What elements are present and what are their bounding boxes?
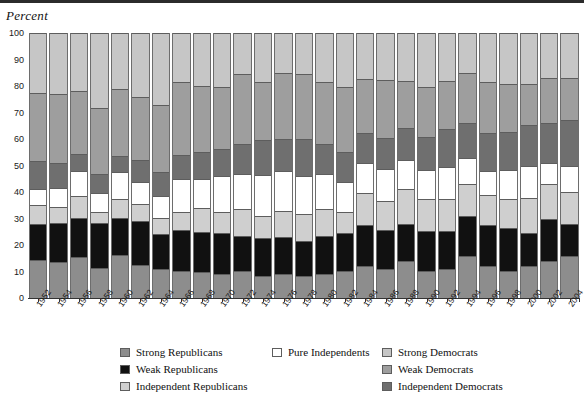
bar-segment-weak_democrats [418, 87, 434, 138]
bar-2004[interactable] [560, 33, 578, 298]
bar-segment-weak_republicans [132, 221, 148, 265]
bar-segment-weak_republicans [71, 218, 87, 257]
legend-item-weak_republicans[interactable]: Weak Republicans [120, 361, 248, 377]
bar-segment-weak_democrats [173, 82, 189, 155]
bar-segment-independent_republicans [398, 189, 414, 223]
bar-segment-independent_republicans [214, 212, 230, 234]
bar-segment-strong_democrats [132, 33, 148, 96]
bar-segment-independent_republicans [316, 209, 332, 236]
bar-segment-weak_republicans [275, 237, 291, 274]
bar-segment-pure_independents [337, 182, 353, 212]
bar-segment-pure_independents [50, 188, 66, 207]
y-tick-label: 50 [0, 161, 24, 171]
y-tick-label: 0 [0, 293, 24, 303]
bar-1994[interactable] [458, 33, 476, 298]
bar-segment-pure_independents [132, 182, 148, 204]
bar-segment-independent_republicans [459, 184, 475, 216]
bar-segment-strong_democrats [439, 33, 455, 81]
bar-segment-strong_democrats [153, 33, 169, 105]
bar-1988[interactable] [397, 33, 415, 298]
legend-item-independent_democrats[interactable]: Independent Democrats [382, 378, 503, 394]
bar-1968[interactable] [193, 33, 211, 298]
bar-1954[interactable] [49, 33, 67, 298]
bar-1958[interactable] [90, 33, 108, 298]
bar-segment-independent_democrats [439, 129, 455, 166]
bar-segment-pure_independents [459, 158, 475, 185]
bar-2000[interactable] [520, 33, 538, 298]
bar-segment-strong_democrats [50, 33, 66, 94]
y-tick-label: 60 [0, 134, 24, 144]
bar-segment-weak_democrats [439, 81, 455, 129]
bar-segment-weak_republicans [459, 216, 475, 256]
bar-segment-weak_republicans [398, 224, 414, 261]
bar-1956[interactable] [70, 33, 88, 298]
y-tick-label: 100 [0, 28, 24, 38]
bar-segment-strong_democrats [377, 33, 393, 80]
bar-segment-strong_democrats [194, 33, 210, 86]
bar-segment-weak_democrats [480, 82, 496, 133]
bar-1982[interactable] [336, 33, 354, 298]
bar-segment-weak_democrats [234, 74, 250, 144]
legend-item-strong_republicans[interactable]: Strong Republicans [120, 344, 248, 360]
bar-segment-strong_democrats [561, 33, 577, 78]
bar-1978[interactable] [295, 33, 313, 298]
bar-1974[interactable] [254, 33, 272, 298]
bar-segment-strong_democrats [112, 33, 128, 89]
bar-segment-pure_independents [377, 169, 393, 200]
bar-segment-independent_democrats [275, 139, 291, 171]
y-tick-label: 80 [0, 81, 24, 91]
legend: Strong RepublicansWeak RepublicansIndepe… [120, 344, 580, 400]
bar-1966[interactable] [172, 33, 190, 298]
bar-1984[interactable] [356, 33, 374, 298]
bar-1972[interactable] [233, 33, 251, 298]
bar-segment-independent_republicans [30, 205, 46, 224]
bar-segment-strong_democrats [275, 33, 291, 73]
bar-1992[interactable] [438, 33, 456, 298]
bar-segment-pure_independents [316, 174, 332, 209]
bar-segment-pure_independents [561, 166, 577, 193]
bar-segment-weak_republicans [112, 218, 128, 255]
bar-1962[interactable] [131, 33, 149, 298]
legend-item-independent_republicans[interactable]: Independent Republicans [120, 378, 248, 394]
legend-item-pure_independents[interactable]: Pure Independents [272, 344, 370, 360]
bar-2002[interactable] [540, 33, 558, 298]
bar-segment-independent_democrats [418, 137, 434, 169]
bar-1990[interactable] [417, 33, 435, 298]
bar-1960[interactable] [111, 33, 129, 298]
bar-segment-independent_republicans [112, 199, 128, 218]
bar-segment-independent_democrats [30, 161, 46, 188]
bar-segment-independent_republicans [357, 193, 373, 225]
legend-label-weak_republicans: Weak Republicans [136, 363, 218, 375]
bar-segment-independent_democrats [316, 144, 332, 174]
bar-segment-independent_republicans [541, 184, 557, 218]
bar-1980[interactable] [315, 33, 333, 298]
bar-1996[interactable] [479, 33, 497, 298]
bar-1998[interactable] [499, 33, 517, 298]
bar-segment-independent_republicans [337, 212, 353, 234]
bar-segment-weak_republicans [521, 233, 537, 265]
bar-segment-weak_democrats [459, 73, 475, 123]
legend-column-democrats: Strong DemocratsWeak DemocratsIndependen… [382, 344, 503, 395]
bar-segment-weak_republicans [30, 224, 46, 260]
bar-segment-independent_republicans [439, 199, 455, 231]
bar-segment-independent_democrats [459, 123, 475, 157]
legend-swatch-strong_republicans [120, 348, 130, 357]
bar-segment-independent_democrats [194, 152, 210, 179]
legend-label-pure_independents: Pure Independents [288, 346, 370, 358]
bar-1970[interactable] [213, 33, 231, 298]
bar-1976[interactable] [274, 33, 292, 298]
legend-item-weak_democrats[interactable]: Weak Democrats [382, 361, 503, 377]
legend-item-strong_democrats[interactable]: Strong Democrats [382, 344, 503, 360]
bar-segment-weak_republicans [480, 225, 496, 266]
bar-1964[interactable] [152, 33, 170, 298]
bar-segment-independent_republicans [296, 214, 312, 241]
bar-1986[interactable] [376, 33, 394, 298]
bar-1952[interactable] [29, 33, 47, 298]
legend-label-independent_republicans: Independent Republicans [136, 380, 248, 392]
bar-segment-independent_republicans [521, 198, 537, 233]
y-tick-label: 40 [0, 187, 24, 197]
bar-segment-weak_democrats [132, 97, 148, 160]
bar-segment-independent_democrats [296, 139, 312, 177]
bar-segment-strong_democrats [480, 33, 496, 82]
y-tick-label: 20 [0, 240, 24, 250]
